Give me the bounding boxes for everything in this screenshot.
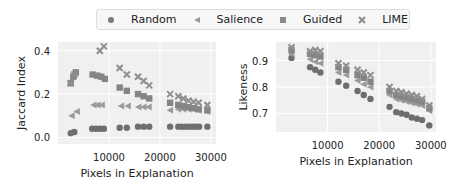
data-point-guided — [195, 106, 201, 112]
triangle-left-marker-icon — [193, 16, 201, 24]
legend-label: Salience — [217, 13, 263, 26]
data-point-guided — [102, 76, 108, 82]
legend-item-random: Random — [107, 13, 177, 26]
data-point-guided — [367, 79, 373, 85]
data-point-random — [146, 123, 152, 129]
data-point-guided — [140, 93, 146, 99]
y-tick-label: 0.8 — [252, 82, 268, 93]
data-point-random — [354, 88, 360, 94]
x-tick-label: 30000 — [195, 152, 227, 163]
x-marker-icon — [358, 16, 366, 24]
legend-label: Guided — [303, 13, 342, 26]
data-point-random — [71, 129, 77, 135]
legend-label: LIME — [382, 13, 408, 26]
data-point-random — [167, 123, 173, 129]
data-point-guided — [135, 91, 141, 97]
legend-item-salience: Salience — [193, 13, 263, 26]
legend-label: Random — [131, 13, 177, 26]
data-point-random — [367, 96, 373, 102]
x-axis-label: Pixels in Explanation — [80, 167, 193, 180]
x-tick-label: 10000 — [312, 140, 344, 151]
data-point-random — [343, 82, 349, 88]
x-tick-label: 20000 — [363, 140, 395, 151]
data-point-random — [361, 92, 367, 98]
legend-item-guided: Guided — [279, 13, 342, 26]
data-point-random — [135, 123, 141, 129]
data-point-random — [317, 69, 323, 75]
data-point-random — [101, 126, 107, 132]
data-point-random — [386, 104, 392, 110]
data-point-random — [196, 123, 202, 129]
x-tick-label: 20000 — [144, 152, 176, 163]
data-point-random — [419, 117, 425, 123]
data-point-random — [116, 125, 122, 131]
y-tick-label: 0.2 — [34, 89, 50, 100]
data-point-guided — [167, 100, 173, 106]
data-point-guided — [124, 88, 130, 94]
x-tick-label: 10000 — [93, 152, 125, 163]
data-point-random — [335, 79, 341, 85]
square-marker-icon — [279, 16, 287, 24]
y-axis-label: Likeness — [237, 63, 250, 110]
legend: Random Salience Guided LIME — [96, 9, 410, 30]
data-point-guided — [146, 95, 152, 101]
circle-marker-icon — [107, 16, 115, 24]
y-tick-label: 0.7 — [252, 108, 268, 119]
y-tick-label: 0.0 — [34, 132, 50, 143]
y-axis-label: Jaccard Index — [15, 56, 28, 131]
data-point-random — [140, 123, 146, 129]
x-tick-label: 30000 — [415, 140, 447, 151]
x-axis-label: Pixels in Explanation — [299, 155, 412, 168]
data-point-random — [204, 123, 210, 129]
data-point-guided — [116, 84, 122, 90]
y-tick-label: 0.9 — [252, 56, 268, 67]
data-point-random — [124, 125, 130, 131]
legend-item-lime: LIME — [358, 13, 408, 26]
data-point-random — [426, 122, 432, 128]
y-tick-label: 0.4 — [34, 46, 50, 57]
likeness-chart: 1000020000300000.70.80.9Pixels in Explan… — [229, 30, 459, 188]
jaccard-chart: 1000020000300000.00.20.4Pixels in Explan… — [0, 30, 230, 188]
